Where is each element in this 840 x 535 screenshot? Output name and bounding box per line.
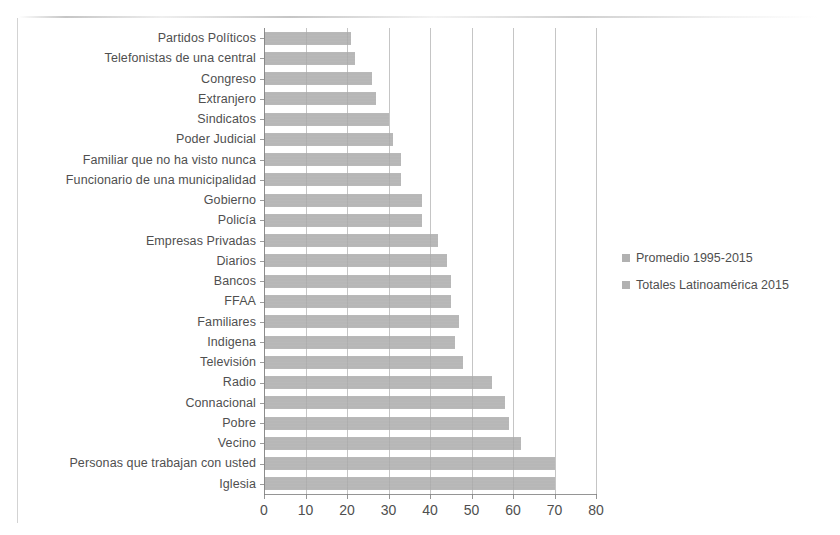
bar[interactable] — [264, 92, 376, 105]
category-label: Funcionario de una municipalidad — [66, 170, 256, 190]
category-label: Telefonistas de una central — [105, 48, 256, 68]
y-axis-line — [264, 28, 265, 495]
x-axis-tick — [430, 494, 431, 499]
legend-item[interactable]: Promedio 1995-2015 — [622, 252, 834, 265]
bar[interactable] — [264, 254, 447, 267]
bar[interactable] — [264, 315, 459, 328]
bar[interactable] — [264, 153, 401, 166]
x-axis-tick — [472, 494, 473, 499]
bar[interactable] — [264, 72, 372, 85]
category-label: Congreso — [201, 69, 256, 89]
category-label: Radio — [223, 372, 256, 392]
category-label: Extranjero — [198, 89, 256, 109]
x-axis-tick-label: 60 — [505, 502, 521, 518]
x-axis-tick — [555, 494, 556, 499]
bar[interactable] — [264, 133, 393, 146]
category-label: Televisión — [200, 352, 256, 372]
bar[interactable] — [264, 417, 509, 430]
category-label: Policía — [218, 210, 256, 230]
bar[interactable] — [264, 376, 492, 389]
bar[interactable] — [264, 457, 555, 470]
legend-swatch-icon — [622, 281, 630, 289]
category-label: Gobierno — [204, 190, 256, 210]
category-label: Familiares — [197, 312, 256, 332]
x-axis-tick — [596, 494, 597, 499]
category-label: Familiar que no ha visto nunca — [83, 150, 256, 170]
x-axis-tick — [264, 494, 265, 499]
x-axis-tick-label: 10 — [298, 502, 314, 518]
bar[interactable] — [264, 396, 505, 409]
category-label: Personas que trabajan con usted — [69, 453, 256, 473]
category-label: Bancos — [214, 271, 256, 291]
x-axis-tick-label: 30 — [381, 502, 397, 518]
bar[interactable] — [264, 275, 451, 288]
category-axis-labels: Partidos PolíticosTelefonistas de una ce… — [20, 28, 260, 494]
bar[interactable] — [264, 356, 463, 369]
bar[interactable] — [264, 214, 422, 227]
x-axis-tick-label: 40 — [422, 502, 438, 518]
horizontal-bar-chart: Partidos PolíticosTelefonistas de una ce… — [0, 0, 840, 535]
category-label: Indigena — [207, 332, 256, 352]
legend-item[interactable]: Totales Latinoamérica 2015 — [622, 279, 834, 292]
bar[interactable] — [264, 234, 438, 247]
bar[interactable] — [264, 113, 389, 126]
category-label: Empresas Privadas — [146, 231, 256, 251]
bar[interactable] — [264, 194, 422, 207]
x-axis-tick — [306, 494, 307, 499]
bar-series — [264, 28, 596, 494]
x-axis-tick-label: 20 — [339, 502, 355, 518]
legend-swatch-icon — [622, 254, 630, 262]
category-label: Connacional — [185, 393, 256, 413]
category-label: Pobre — [222, 413, 256, 433]
chart-legend: Promedio 1995-2015Totales Latinoamérica … — [622, 252, 834, 305]
bar[interactable] — [264, 173, 401, 186]
bar[interactable] — [264, 52, 355, 65]
x-axis-tick-label: 70 — [547, 502, 563, 518]
bar[interactable] — [264, 32, 351, 45]
plot-area — [264, 28, 596, 494]
x-axis-tick-labels: 01020304050607080 — [264, 502, 597, 526]
category-label: FFAA — [224, 291, 256, 311]
x-axis-tick — [513, 494, 514, 499]
legend-label: Totales Latinoamérica 2015 — [636, 279, 789, 292]
category-label: Poder Judicial — [176, 129, 256, 149]
bar[interactable] — [264, 336, 455, 349]
bar[interactable] — [264, 437, 521, 450]
x-axis-tick-label: 80 — [588, 502, 604, 518]
category-label: Vecino — [218, 433, 256, 453]
x-axis-tick — [347, 494, 348, 499]
x-axis-tick-label: 50 — [464, 502, 480, 518]
legend-label: Promedio 1995-2015 — [636, 252, 753, 265]
gridline-80 — [596, 28, 597, 494]
x-axis-tick — [389, 494, 390, 499]
category-label: Partidos Políticos — [158, 28, 256, 48]
bar[interactable] — [264, 477, 555, 490]
x-axis-tick-label: 0 — [260, 502, 268, 518]
bar[interactable] — [264, 295, 451, 308]
category-label: Diarios — [216, 251, 256, 271]
category-label: Iglesia — [219, 474, 256, 494]
category-label: Sindicatos — [197, 109, 256, 129]
